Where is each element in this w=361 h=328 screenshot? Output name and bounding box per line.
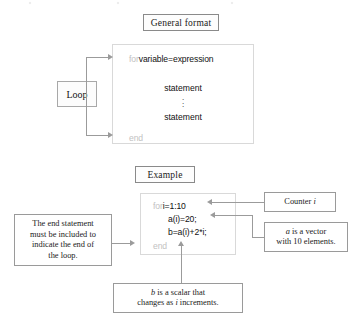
- general-format-for-line: forvariable=expression: [129, 54, 214, 64]
- counter-annotation-text: Counter i: [284, 197, 315, 208]
- keyword-for: for: [129, 54, 139, 64]
- vector-annotation-line-1: a is a vector: [286, 227, 327, 238]
- general-format-header: variable=expression: [139, 54, 214, 64]
- loop-bracket-spine: [86, 57, 87, 135]
- general-format-code-panel: forvariable=expression statement ... sta…: [112, 44, 254, 144]
- example-for-line: fori=1:10: [153, 201, 186, 211]
- general-format-end-line: end: [129, 133, 143, 143]
- loop-arrow-to-for-head: [108, 54, 113, 60]
- loop-arrow-to-end-line: [86, 135, 110, 136]
- example-caption: Example: [135, 166, 195, 183]
- counter-annotation-box: Counter i: [264, 192, 336, 212]
- general-format-caption: General format: [143, 14, 219, 31]
- scalar-annotation-line-2: changes as i increments.: [137, 298, 218, 309]
- loop-arrow-to-for-line: [86, 57, 110, 58]
- vector-connector-head: [210, 212, 215, 218]
- vector-connector-h2: [215, 215, 253, 216]
- scalar-connector-line: [181, 246, 182, 283]
- end-statement-line-4: the loop.: [48, 251, 77, 262]
- example-header: i=1:10: [163, 201, 186, 211]
- counter-variable-italic: i: [313, 197, 315, 206]
- end-statement-connector-head: [130, 240, 135, 246]
- example-line-3: b=a(i)+2*i;: [168, 227, 207, 237]
- vector-connector-v: [252, 215, 253, 238]
- loop-arrow-to-end-head: [108, 132, 113, 138]
- keyword-for: for: [153, 201, 163, 211]
- example-end-line: end: [153, 241, 167, 251]
- scalar-annotation-line-1: b is a scalar that: [151, 288, 205, 299]
- vector-annotation-line-2: with 10 elements.: [276, 237, 335, 248]
- end-statement-connector-line: [112, 243, 132, 244]
- end-statement-line-1: The end statement: [32, 219, 93, 230]
- scalar-connector-head: [178, 241, 184, 246]
- end-statement-line-2: must be included to: [30, 230, 96, 241]
- general-format-statement-first: statement: [113, 83, 253, 93]
- example-line-2: a(i)=20;: [168, 214, 197, 224]
- end-statement-annotation-box: The end statement must be included to in…: [14, 214, 112, 266]
- general-format-statement-last: statement: [113, 112, 253, 122]
- scan-artifact-strip: [0, 0, 361, 7]
- counter-connector-line: [212, 202, 264, 203]
- vector-annotation-box: a is a vector with 10 elements.: [264, 222, 348, 252]
- counter-connector-head: [207, 199, 212, 205]
- end-statement-line-3: indicate the end of: [32, 240, 94, 251]
- vertical-ellipsis-icon: ...: [113, 96, 253, 107]
- scalar-annotation-box: b is a scalar that changes as i incremen…: [113, 283, 243, 313]
- vector-connector-h1: [252, 237, 264, 238]
- loop-box: Loop: [57, 81, 97, 107]
